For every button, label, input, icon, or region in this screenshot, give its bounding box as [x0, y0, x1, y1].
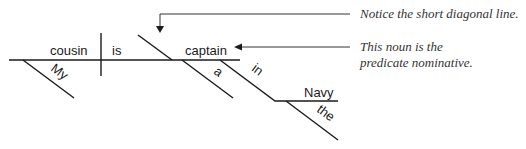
word-navy: Navy: [304, 85, 334, 100]
sentence-diagram: cousin is captain My a in Navy the Notic…: [0, 0, 526, 149]
word-in: in: [249, 60, 266, 78]
modifier-line-my: [23, 60, 74, 98]
word-a: a: [211, 63, 226, 80]
word-is: is: [112, 43, 122, 58]
arrow-left-icon: [234, 44, 242, 51]
modifier-line-a: [182, 60, 233, 98]
note-pn-line-2: predicate nominative.: [359, 55, 473, 70]
word-captain: captain: [185, 43, 227, 58]
arrow-down-icon: [156, 26, 164, 33]
word-my: My: [48, 60, 71, 83]
note-pn-line-1: This noun is the: [360, 39, 443, 54]
note-short-diagonal: Notice the short diagonal line.: [359, 6, 519, 21]
word-cousin: cousin: [50, 43, 88, 58]
short-diagonal-line: [138, 35, 172, 60]
word-the: the: [314, 101, 337, 124]
arrow-line-diagonal-note: [160, 14, 350, 27]
